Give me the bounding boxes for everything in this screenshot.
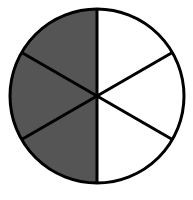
fraction-circle-diagram <box>0 0 193 200</box>
